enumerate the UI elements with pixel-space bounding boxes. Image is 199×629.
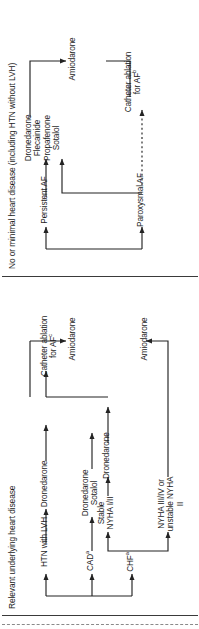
node-amiodarone-right-top: Amiodarone (68, 317, 77, 361)
node-dronedarone-chf: Dronedarone (102, 439, 111, 479)
node-catheter-ablation-af-b-line1: Catheter ablation (124, 52, 133, 113)
node-catheter-ablation-af-c-superscript: c (48, 334, 54, 337)
flowchart-stage: Relevant underlying heart disease No or … (0, 0, 199, 629)
node-cad-label: CAD (86, 554, 95, 571)
node-catheter-ablation-af-c: Catheter ablationfor AFc (40, 315, 59, 377)
connector-lines (0, 0, 199, 629)
node-drug-list: Dronedarone Flecainide Propafenone Sotal… (24, 113, 62, 163)
header-no-or-minimal-heart-disease: No or minimal heart disease (including H… (8, 63, 18, 269)
node-catheter-ablation-af-b: Catheter ablationfor AFb (124, 51, 143, 113)
node-catheter-ablation-af-b-superscript: b (132, 70, 138, 73)
node-cad: CADa (86, 549, 95, 573)
node-chf-superscript: a (124, 552, 130, 555)
node-dronedarone-sotalol: Dronedarone Sotalol (81, 467, 100, 519)
node-persistent-af: Persistent AF (40, 171, 49, 229)
diagram-canvas: Relevant underlying heart disease No or … (0, 0, 199, 629)
node-amiodarone-left: Amiodarone (68, 37, 77, 81)
frame-line-outer (2, 615, 198, 616)
node-catheter-ablation-af-b-line2: for AF (133, 73, 142, 94)
node-chf-label: CHF (126, 555, 135, 572)
node-unstable-nyha: NYHA III/IV or unstable NYHA II (157, 475, 185, 533)
node-catheter-ablation-af-c-line2: for AF (49, 337, 58, 358)
node-paroxysmal-af: Paroxysmal AF (136, 171, 145, 229)
node-catheter-ablation-af-c-line1: Catheter ablation (40, 316, 49, 377)
node-chf: CHFa (126, 551, 135, 573)
column-divider (2, 276, 198, 277)
node-stable-nyha: Stable NYHA I/II (97, 495, 116, 531)
node-htn-with-lvh: HTN with LVH (40, 511, 49, 573)
node-amiodarone-right-bottom: Amiodarone (140, 317, 149, 361)
header-relevant-underlying-heart-disease: Relevant underlying heart disease (8, 486, 18, 609)
frame-line-dashed (2, 623, 198, 625)
node-dronedarone-htn: Dronedarone (40, 457, 49, 511)
node-cad-superscript: a (84, 551, 90, 554)
